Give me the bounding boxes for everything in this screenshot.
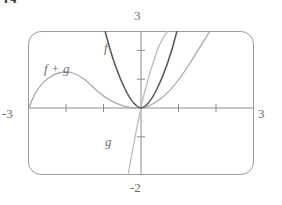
axis-label-y-max: 3 [134, 8, 141, 24]
axes-group [29, 32, 253, 174]
axis-label-x-max: 3 [258, 106, 265, 122]
plot-area [28, 31, 254, 175]
figure-container: 19. 3 -3 3 -2 f f + g g [0, 0, 282, 205]
axis-label-x-min: -3 [2, 106, 13, 122]
curve-label-f: f [104, 40, 108, 56]
curve-label-g: g [105, 134, 112, 150]
axis-label-y-min: -2 [130, 180, 141, 196]
curve-label-f-plus-g: f + g [44, 61, 69, 77]
problem-number: 19. [2, 0, 19, 3]
